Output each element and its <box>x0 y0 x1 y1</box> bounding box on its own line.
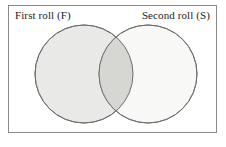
label-second-roll: Second roll (S) <box>142 9 210 22</box>
venn-diagram-figure: First roll (F) Second roll (S) <box>0 0 226 147</box>
sample-space-frame <box>8 5 217 133</box>
label-first-roll: First roll (F) <box>15 9 71 22</box>
